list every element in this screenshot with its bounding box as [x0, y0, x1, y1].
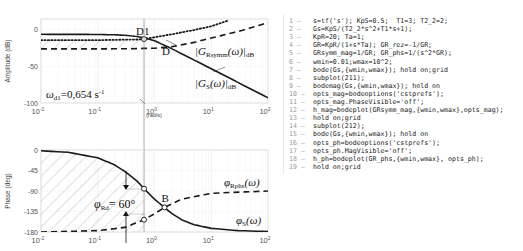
- code-text[interactable]: bode(Gs,{wmin,wmax}); hold on;grid: [313, 66, 448, 74]
- phase-rphs-marker: [142, 217, 147, 222]
- ytick-label: -135: [24, 208, 38, 215]
- xtick-label: 102: [259, 106, 270, 116]
- d1-label: D1: [136, 25, 149, 37]
- code-text[interactable]: bode(Gs,{wmin,wmax}); hold on: [313, 130, 428, 138]
- code-text[interactable]: bodemag(Gs,{wmin,wmax}); hold on: [313, 82, 440, 90]
- code-text[interactable]: opts_ph=bodeoptions('cstprefs');: [313, 139, 440, 147]
- code-text[interactable]: h_ph=bodeplot(GR_phs,{wmin,wmax}, opts_p…: [313, 155, 484, 163]
- ytick-label: -100: [24, 100, 38, 107]
- xtick-label: 101: [203, 106, 214, 116]
- d-label: D: [162, 45, 170, 57]
- code-text[interactable]: wmin=0.01;wmax=10^2;: [313, 58, 392, 66]
- code-text[interactable]: opts_mag.PhaseVisible='off';: [313, 98, 424, 106]
- code-text[interactable]: subplot(212);: [313, 122, 365, 130]
- b-label: B: [161, 192, 168, 204]
- xtick-label: 10-2: [32, 235, 45, 245]
- phi-rphs-annotation: φRphs(ω): [224, 176, 260, 190]
- phase-subplot: 0-45-90-135-180 10-210-1100101102 Phase …: [4, 147, 271, 246]
- code-text[interactable]: opts_ph.MagVisible='off';: [313, 147, 412, 155]
- magnitude-xlabel: (rad/s): [146, 112, 162, 118]
- code-text[interactable]: opts_mag=bodeoptions('cstprefs');: [313, 90, 444, 98]
- ytick-label: -45: [28, 167, 38, 174]
- ytick-label: 0: [34, 147, 38, 154]
- phi-rd-annotation: φRd= 60°: [94, 197, 136, 212]
- code-text[interactable]: GR=KpR/(1+s*Ta); GR_rez=-1/GR;: [313, 41, 432, 49]
- code-text[interactable]: subplot(211);: [313, 74, 365, 82]
- phase-hatch-region: [41, 151, 144, 232]
- xtick-label: 10-1: [88, 235, 101, 245]
- code-text[interactable]: s=tf('s'); KpS=0.5; T1=3; T2_2=2;: [313, 17, 448, 25]
- code-text[interactable]: KpR=20; Ta=1;: [313, 33, 365, 41]
- ytick-label: -90: [28, 188, 38, 195]
- ytick-label: -50: [28, 63, 38, 70]
- line-number: 19 –: [284, 163, 313, 172]
- code-editor[interactable]: 1 –s=tf('s'); KpS=0.5; T1=3; T2_2=2;2 –G…: [283, 14, 523, 174]
- code-line[interactable]: 19 –hold on;grid: [284, 163, 361, 172]
- bode-plots: 0-50-100 10-210-1100101102 Amplitude (dB…: [0, 0, 280, 251]
- code-text[interactable]: hold on;grid: [313, 163, 361, 171]
- phase-crossing-marker: [142, 186, 147, 191]
- code-text[interactable]: h_mag=bodeplot(GRsymm_mag,{wmin,wmax},op…: [313, 106, 504, 114]
- xtick-label: 10-2: [32, 106, 45, 116]
- code-text[interactable]: GRsymm_mag=1/GR; GR_phs=1/(s^2*GR);: [313, 49, 452, 57]
- xtick-label: 100: [146, 235, 157, 245]
- ytick-label: 0: [34, 26, 38, 33]
- xtick-label: 101: [203, 235, 214, 245]
- phi-s-annotation: φS(ω): [236, 214, 261, 228]
- ytick-label: -180: [24, 229, 38, 236]
- b-point-marker: [162, 205, 167, 210]
- magnitude-subplot: 0-50-100 10-210-1100101102 Amplitude (dB…: [4, 19, 271, 118]
- code-text[interactable]: hold on;grid: [313, 114, 361, 122]
- magnitude-ylabel: Amplitude (dB): [4, 40, 12, 83]
- code-text[interactable]: Gs=KpS/(T2_2*s^2+T1*s+1);: [313, 25, 412, 33]
- xtick-label: 102: [259, 235, 270, 245]
- xtick-label: 10-1: [88, 106, 101, 116]
- phase-ylabel: Phase (deg): [4, 173, 12, 208]
